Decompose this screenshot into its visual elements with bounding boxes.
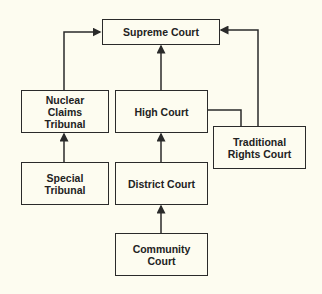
node-special-tribunal: Special Tribunal (21, 162, 109, 205)
node-label: Traditional Rights Court (217, 136, 302, 160)
arrow-nuclear-to-supreme (64, 32, 100, 90)
node-traditional-rights-court: Traditional Rights Court (213, 126, 306, 169)
line-high-to-traditional (207, 110, 241, 126)
arrow-traditional-to-supreme (221, 30, 258, 126)
node-label: High Court (134, 106, 188, 118)
node-supreme-court: Supreme Court (102, 19, 220, 45)
node-high-court: High Court (115, 90, 208, 133)
node-district-court: District Court (115, 162, 208, 205)
node-nuclear-claims-tribunal: Nuclear Claims Tribunal (21, 90, 109, 133)
node-label: Community Court (130, 243, 193, 267)
node-community-court: Community Court (115, 233, 208, 276)
node-label: Special Tribunal (40, 172, 90, 196)
node-label: District Court (128, 178, 195, 190)
node-label: Nuclear Claims Tribunal (28, 94, 102, 130)
node-label: Supreme Court (123, 26, 199, 38)
